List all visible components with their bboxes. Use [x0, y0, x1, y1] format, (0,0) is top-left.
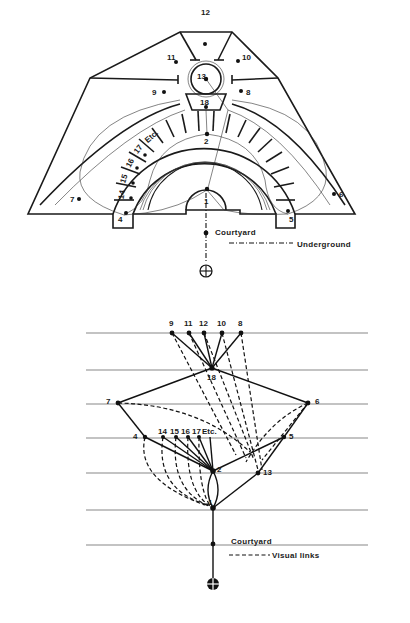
plan-label-5: 5: [289, 215, 294, 224]
plan-label-18: 18: [200, 98, 209, 107]
plan-label-10: 10: [242, 53, 251, 62]
plan-courtyard-label: Courtyard: [215, 228, 256, 237]
plan-label-6: 6: [339, 190, 344, 199]
wall-line: [180, 32, 196, 60]
graph-node-5: [282, 435, 286, 439]
graph-label-11: 11: [184, 319, 193, 328]
building-plan: 12 11 10 13 9 8 18 2 1 7 6 4 5 14 15 16 …: [28, 8, 355, 277]
plan-label-16: 16: [124, 156, 136, 169]
plan-label-17: 17: [132, 142, 145, 155]
wall-line: [232, 78, 278, 80]
graph-node-8: [239, 331, 244, 336]
plan-label-14: 14: [117, 189, 128, 200]
graph-label-etc: Etc.: [202, 427, 217, 436]
plan-label-15: 15: [118, 173, 129, 185]
graph-label-7: 7: [106, 397, 111, 406]
wall-line: [90, 78, 178, 80]
outside-carrier-icon: [207, 578, 219, 590]
graph-label-13: 13: [263, 468, 272, 477]
wall-line: [218, 32, 232, 60]
graph-label-2: 2: [217, 465, 222, 474]
graph-node-7: [116, 401, 121, 406]
plan-label-etc: Etc.: [143, 128, 160, 145]
graph-node-6: [306, 401, 311, 406]
visual-links-legend-label: Visual links: [272, 551, 320, 560]
diagram-canvas: 12 11 10 13 9 8 18 2 1 7 6 4 5 14 15 16 …: [0, 0, 410, 623]
cell-dividers: [114, 111, 295, 200]
graph-node-4: [143, 435, 147, 439]
graph-node-11: [187, 331, 192, 336]
outside-carrier-icon: [200, 265, 212, 277]
graph-node-courtyard: [211, 542, 216, 547]
wall-line: [232, 104, 345, 205]
graph-courtyard-label: Courtyard: [231, 537, 272, 546]
graph-label-17: 17: [192, 427, 201, 436]
graph-node-2: [210, 468, 216, 474]
graph-label-4: 4: [133, 432, 138, 441]
graph-label-6: 6: [315, 397, 320, 406]
graph-node-18: [209, 365, 214, 370]
plan-label-4: 4: [118, 215, 123, 224]
graph-node-13: [256, 471, 261, 476]
plan-label-9: 9: [152, 88, 157, 97]
graph-label-9: 9: [169, 319, 174, 328]
arch-inner: [133, 164, 276, 214]
plan-label-11: 11: [167, 53, 176, 62]
underground-legend-label: Underground: [297, 240, 351, 249]
graph-label-15: 15: [170, 427, 179, 436]
graph-label-18: 18: [207, 373, 216, 382]
access-graph: 9 11 12 10 8 18 7 6 4 14 15 16 17 Etc. 5…: [86, 319, 368, 590]
plan-label-12: 12: [201, 8, 210, 17]
graph-label-5: 5: [289, 432, 294, 441]
plan-label-13: 13: [197, 72, 206, 81]
plan-label-2: 2: [204, 137, 209, 146]
graph-label-12: 12: [199, 319, 208, 328]
graph-label-16: 16: [181, 427, 190, 436]
visual-links: [118, 333, 308, 507]
plan-label-7: 7: [70, 195, 75, 204]
plan-label-8: 8: [246, 88, 251, 97]
graph-node-12: [202, 331, 207, 336]
graph-node-10: [220, 331, 225, 336]
graph-node-9: [170, 331, 175, 336]
graph-label-14: 14: [158, 427, 167, 436]
graph-label-8: 8: [238, 319, 243, 328]
graph-label-1: 1: [208, 498, 213, 507]
graph-label-10: 10: [217, 319, 226, 328]
